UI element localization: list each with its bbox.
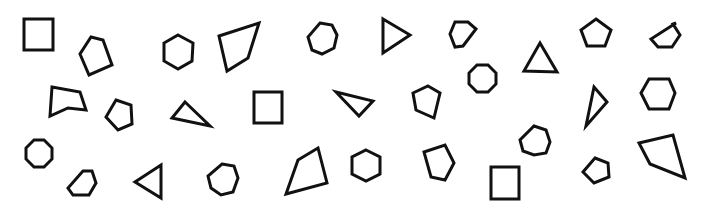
shapes-canvas bbox=[0, 0, 719, 217]
